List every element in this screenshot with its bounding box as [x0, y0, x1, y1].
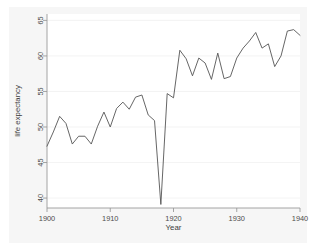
x-axis-ticks: [47, 208, 300, 212]
y-tick-label: 50: [36, 123, 45, 131]
chart-figure: 404550556065 19001910192019301940 Year l…: [0, 0, 315, 252]
x-tick-label: 1910: [102, 214, 118, 223]
y-axis-tick-labels: 404550556065: [36, 16, 45, 202]
y-tick-label: 40: [36, 194, 45, 202]
x-tick-label: 1930: [229, 214, 245, 223]
y-tick-label: 45: [36, 158, 45, 166]
x-tick-label: 1900: [39, 214, 55, 223]
x-tick-label: 1920: [165, 214, 181, 223]
y-tick-label: 60: [36, 52, 45, 60]
x-tick-label: 1940: [292, 214, 308, 223]
x-axis-title: Year: [166, 223, 182, 232]
y-tick-label: 55: [36, 87, 45, 95]
x-axis-tick-labels: 19001910192019301940: [39, 214, 308, 223]
y-tick-label: 65: [36, 16, 45, 24]
chart-svg: 404550556065 19001910192019301940 Year l…: [0, 0, 315, 252]
y-axis-title: life expectancy: [13, 85, 22, 137]
y-axis-ticks: [43, 20, 47, 198]
